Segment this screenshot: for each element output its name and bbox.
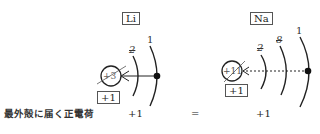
na-shell-8-label: 8: [276, 35, 282, 45]
li-nucleus-charge: +3: [103, 71, 116, 81]
li-symbol-box: Li: [122, 12, 140, 25]
comparison-row-label: 最外殻に届く正電荷: [4, 108, 94, 120]
na-shell-2-label: 2: [257, 43, 263, 53]
na-outer-charge-value: +1: [256, 108, 271, 120]
li-shell-2-label: 2: [129, 45, 135, 55]
na-nucleus-charge: +11: [223, 66, 242, 76]
li-effective-charge-box: +1: [97, 91, 120, 104]
equals-sign: =: [191, 108, 199, 120]
na-shell-1-label: 1: [296, 26, 302, 36]
na-outer-electron: [305, 68, 312, 75]
na-shell-2-arc: [261, 55, 266, 89]
na-symbol-box: Na: [250, 12, 273, 25]
li-outer-electron: [154, 73, 161, 80]
li-shell-1-label: 1: [147, 35, 153, 45]
li-outer-charge-value: +1: [128, 108, 143, 120]
na-effective-charge-box: +1: [225, 84, 248, 97]
